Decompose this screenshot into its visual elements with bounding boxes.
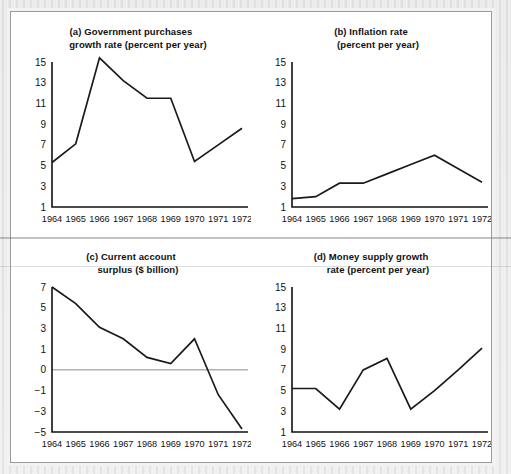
x-axis-tick-label: 1967 (113, 214, 133, 224)
y-axis-tick-label: 11 (276, 323, 287, 334)
x-axis-tick-label: 1967 (353, 439, 373, 449)
figure-plate: (a) Government purchases growth rate (pe… (10, 11, 492, 463)
y-axis-tick-label: 15 (275, 57, 287, 68)
x-axis-tick-label: 1966 (329, 214, 349, 224)
y-axis-tick-label: 7 (40, 282, 46, 293)
y-axis-tick-label: −3 (35, 406, 47, 417)
y-axis-tick-label: 11 (276, 98, 287, 109)
x-axis-tick-label: 1970 (424, 439, 444, 449)
y-axis-tick-label: 7 (280, 364, 286, 375)
x-axis-tick-label: 1966 (89, 439, 109, 449)
y-axis-tick-label: 9 (280, 119, 286, 130)
x-axis-tick-label: 1964 (42, 439, 62, 449)
data-series-line (292, 348, 482, 409)
x-axis-tick-label: 1966 (89, 214, 109, 224)
x-axis-tick-label: 1968 (137, 439, 157, 449)
x-axis-tick-label: 1965 (306, 439, 326, 449)
panel-a-government-purchases: (a) Government purchases growth rate (pe… (11, 12, 251, 237)
y-axis-tick-label: 7 (40, 139, 46, 150)
x-axis-tick-label: 1972 (232, 439, 251, 449)
x-axis-tick-label: 1969 (401, 439, 421, 449)
x-axis-tick-label: 1971 (208, 214, 228, 224)
x-axis-tick-label: 1969 (401, 214, 421, 224)
y-axis-tick-label: 15 (35, 57, 47, 68)
y-axis-tick-label: 5 (280, 160, 286, 171)
x-axis-tick-label: 1966 (329, 439, 349, 449)
data-series-line (52, 58, 242, 163)
x-axis-tick-label: 1964 (282, 439, 302, 449)
x-axis-tick-label: 1964 (282, 214, 302, 224)
x-axis-tick-label: 1965 (306, 214, 326, 224)
panel-c-svg: 75310−1−3−519641965196619671968196919701… (11, 237, 251, 462)
y-axis-tick-label: 7 (280, 139, 286, 150)
y-axis-tick-label: 1 (280, 427, 286, 438)
x-axis-tick-label: 1968 (377, 439, 397, 449)
y-axis-tick-label: 1 (40, 202, 46, 213)
x-axis-tick-label: 1972 (472, 214, 491, 224)
y-axis-tick-label: 0 (40, 364, 46, 375)
axes (292, 62, 488, 207)
y-axis-tick-label: 13 (35, 77, 47, 88)
panel-a-svg: 1513119753119641965196619671968196919701… (11, 12, 251, 237)
y-axis-tick-label: 5 (280, 385, 286, 396)
x-axis-tick-label: 1972 (472, 439, 491, 449)
y-axis-tick-label: 3 (280, 181, 286, 192)
y-axis-tick-label: 3 (280, 406, 286, 417)
x-axis-tick-label: 1968 (377, 214, 397, 224)
panel-b-svg: 1513119753119641965196619671968196919701… (251, 12, 491, 237)
y-axis-tick-label: 1 (40, 344, 46, 355)
y-axis-tick-label: 15 (275, 282, 287, 293)
x-axis-tick-label: 1968 (137, 214, 157, 224)
x-axis-tick-label: 1971 (448, 439, 468, 449)
x-axis-tick-label: 1969 (161, 439, 181, 449)
panel-c-current-account-surplus: (c) Current account surplus ($ billion) … (11, 237, 251, 462)
x-axis-tick-label: 1965 (66, 214, 86, 224)
y-axis-tick-label: 3 (40, 181, 46, 192)
x-axis-tick-label: 1971 (208, 439, 228, 449)
y-axis-tick-label: 5 (40, 160, 46, 171)
x-axis-tick-label: 1964 (42, 214, 62, 224)
figure-root: (a) Government purchases growth rate (pe… (0, 0, 511, 474)
y-axis-tick-label: 1 (280, 202, 286, 213)
y-axis-tick-label: 13 (275, 302, 287, 313)
panel-b-inflation-rate: (b) Inflation rate (percent per year) 15… (251, 12, 491, 237)
axes (292, 287, 488, 432)
data-series-line (52, 287, 242, 429)
panel-d-svg: 1513119753119641965196619671968196919701… (251, 237, 491, 462)
x-axis-tick-label: 1972 (232, 214, 251, 224)
x-axis-tick-label: 1967 (113, 439, 133, 449)
x-axis-tick-label: 1971 (448, 214, 468, 224)
y-axis-tick-label: 13 (275, 77, 287, 88)
x-axis-tick-label: 1969 (161, 214, 181, 224)
x-axis-tick-label: 1965 (66, 439, 86, 449)
panel-grid: (a) Government purchases growth rate (pe… (11, 12, 491, 462)
y-axis-tick-label: 11 (36, 98, 47, 109)
y-axis-tick-label: 5 (40, 302, 46, 313)
panel-a-plot: 1513119753119641965196619671968196919701… (11, 12, 251, 237)
y-axis-tick-label: 9 (40, 119, 46, 130)
data-series-line (292, 155, 482, 199)
x-axis-tick-label: 1970 (184, 214, 204, 224)
y-axis-tick-label: −5 (35, 427, 47, 438)
x-axis-tick-label: 1967 (353, 214, 373, 224)
panel-d-money-supply-growth: (d) Money supply growth rate (percent pe… (251, 237, 491, 462)
panel-d-plot: 1513119753119641965196619671968196919701… (251, 237, 491, 462)
y-axis-tick-label: 3 (40, 323, 46, 334)
panel-b-plot: 1513119753119641965196619671968196919701… (251, 12, 491, 237)
axes (52, 62, 248, 207)
x-axis-tick-label: 1970 (424, 214, 444, 224)
x-axis-tick-label: 1970 (184, 439, 204, 449)
panel-c-plot: 75310−1−3−519641965196619671968196919701… (11, 237, 251, 462)
y-axis-tick-label: −1 (35, 385, 47, 396)
y-axis-tick-label: 9 (280, 344, 286, 355)
